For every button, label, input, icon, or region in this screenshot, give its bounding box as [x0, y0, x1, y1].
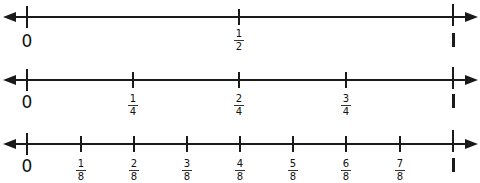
numerator: 1 — [236, 29, 242, 39]
label-one — [452, 158, 455, 172]
arrow-right-icon — [465, 139, 478, 149]
label-2-4: 2 4 — [232, 94, 246, 117]
label-4-8: 4 8 — [233, 159, 247, 182]
numerator: 6 — [343, 159, 349, 169]
tick-4-8 — [239, 136, 241, 152]
arrow-right-icon — [465, 12, 478, 22]
numerator: 4 — [237, 159, 243, 169]
arrow-right-icon — [465, 75, 478, 85]
label-one — [452, 33, 455, 47]
label-1-4: 1 4 — [126, 94, 140, 117]
tick-5-8 — [292, 136, 294, 152]
label-6-8: 6 8 — [339, 159, 353, 182]
tick-6-8 — [345, 136, 347, 152]
numerator: 3 — [184, 159, 190, 169]
tick-3-4 — [345, 72, 347, 88]
tick-one — [452, 4, 454, 26]
denominator: 4 — [130, 107, 136, 117]
label-one — [452, 94, 455, 108]
label-zero: 0 — [17, 158, 37, 175]
numerator: 3 — [343, 94, 349, 104]
label-5-8: 5 8 — [286, 159, 300, 182]
tick-one — [452, 67, 454, 89]
tick-1-4 — [132, 72, 134, 88]
number-line-eighths: 0 1 8 2 8 3 8 4 8 5 8 6 8 7 8 — [0, 126, 480, 183]
tick-2-8 — [133, 136, 135, 152]
label-1-2: 1 2 — [232, 29, 246, 52]
denominator: 8 — [290, 172, 296, 182]
tick-1-8 — [80, 136, 82, 152]
numerator: 2 — [131, 159, 137, 169]
number-line-halves: 0 1 2 — [0, 0, 480, 60]
denominator: 8 — [343, 172, 349, 182]
tick-7-8 — [399, 136, 401, 152]
tick-zero — [26, 69, 28, 91]
label-1-8: 1 8 — [74, 159, 88, 182]
denominator: 2 — [236, 42, 242, 52]
tick-2-4 — [238, 72, 240, 88]
denominator: 8 — [131, 172, 137, 182]
label-zero: 0 — [17, 33, 37, 50]
denominator: 8 — [184, 172, 190, 182]
label-zero: 0 — [17, 94, 37, 111]
number-line-fourths: 0 1 4 2 4 3 4 — [0, 63, 480, 123]
denominator: 8 — [237, 172, 243, 182]
tick-zero — [26, 133, 28, 155]
tick-zero — [26, 6, 28, 28]
numerator: 1 — [130, 94, 136, 104]
numerator: 2 — [236, 94, 242, 104]
denominator: 4 — [236, 107, 242, 117]
label-3-4: 3 4 — [339, 94, 353, 117]
label-2-8: 2 8 — [127, 159, 141, 182]
denominator: 8 — [78, 172, 84, 182]
numerator: 5 — [290, 159, 296, 169]
denominator: 8 — [397, 172, 403, 182]
numerator: 1 — [78, 159, 84, 169]
denominator: 4 — [343, 107, 349, 117]
tick-3-8 — [186, 136, 188, 152]
label-7-8: 7 8 — [393, 159, 407, 182]
numerator: 7 — [397, 159, 403, 169]
tick-one — [452, 130, 454, 152]
tick-1-2 — [238, 9, 240, 25]
label-3-8: 3 8 — [180, 159, 194, 182]
